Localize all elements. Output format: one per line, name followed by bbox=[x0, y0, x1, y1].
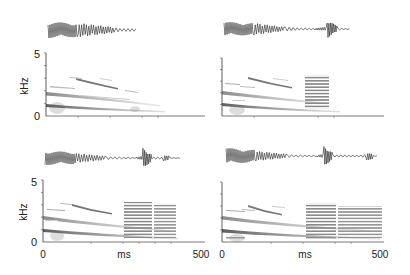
y-tick-min: 0 bbox=[34, 110, 40, 122]
spectrogram bbox=[43, 202, 178, 241]
panel-top-left: 5 0 kHz bbox=[19, 22, 205, 122]
x-tick-max: 500 bbox=[193, 249, 210, 260]
y-axis bbox=[41, 180, 43, 242]
spectrogram bbox=[222, 75, 340, 115]
y-axis-label: kHz bbox=[19, 77, 30, 94]
y-axis-label: kHz bbox=[18, 203, 29, 220]
x-tick-min: 0 bbox=[40, 249, 46, 260]
x-axis-label: ms bbox=[298, 249, 311, 260]
y-axis bbox=[44, 53, 46, 116]
spectrogram-figure: 5 0 kHz bbox=[0, 0, 410, 275]
y-tick-min: 0 bbox=[31, 236, 37, 248]
waveform bbox=[45, 148, 180, 165]
y-tick-max: 5 bbox=[31, 176, 37, 188]
x-axis bbox=[46, 116, 205, 118]
spectrogram bbox=[46, 77, 165, 114]
spectrogram bbox=[222, 203, 382, 242]
x-axis bbox=[222, 242, 384, 244]
panel-bottom-left: 5 0 kHz 0 ms 500 bbox=[18, 148, 210, 260]
panel-bottom-right: 0 ms 500 bbox=[219, 147, 389, 260]
x-tick-min: 0 bbox=[219, 249, 225, 260]
y-axis bbox=[220, 182, 222, 242]
waveform bbox=[224, 22, 350, 37]
y-axis bbox=[220, 58, 222, 116]
x-axis bbox=[43, 242, 205, 244]
waveform bbox=[48, 22, 136, 38]
waveform bbox=[226, 147, 377, 165]
x-axis bbox=[222, 116, 384, 118]
x-axis-label: ms bbox=[117, 249, 130, 260]
x-tick-max: 500 bbox=[372, 249, 389, 260]
panel-top-right bbox=[220, 22, 384, 118]
y-tick-max: 5 bbox=[34, 48, 40, 60]
